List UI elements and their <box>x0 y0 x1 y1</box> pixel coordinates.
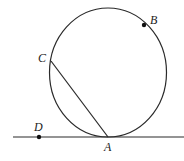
point-d-dot <box>37 135 41 139</box>
chord-ca <box>51 61 108 137</box>
label-b: B <box>150 13 158 27</box>
circle <box>50 8 167 137</box>
label-a: A <box>103 140 112 154</box>
point-b-dot <box>142 23 146 27</box>
label-c: C <box>38 51 47 65</box>
geometry-diagram: B C D A <box>0 0 184 161</box>
label-d: D <box>33 120 43 134</box>
